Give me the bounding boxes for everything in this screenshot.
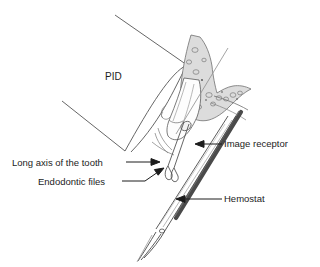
label-image-receptor: Image receptor xyxy=(224,139,288,149)
dental-technique-diagram xyxy=(0,0,320,267)
label-pid: PID xyxy=(105,72,122,82)
leader-hemostat xyxy=(176,196,222,203)
leader-long-axis xyxy=(126,159,160,166)
hemostat-handle-2 xyxy=(141,234,161,260)
leader-endodontic-files xyxy=(122,168,164,181)
label-endodontic-files: Endodontic files xyxy=(38,177,105,187)
label-hemostat: Hemostat xyxy=(224,194,265,204)
pid-top-edge xyxy=(115,15,187,65)
pid-bottom-edge xyxy=(62,101,125,151)
tooth xyxy=(167,78,201,140)
hemostat xyxy=(137,116,236,262)
label-long-axis-of-the-tooth: Long axis of the tooth xyxy=(12,158,103,168)
hemostat-handle-3 xyxy=(138,232,156,261)
figure-canvas: PID Long axis of the tooth Endodontic fi… xyxy=(0,0,320,267)
hemostat-inner-line-2 xyxy=(160,124,225,224)
